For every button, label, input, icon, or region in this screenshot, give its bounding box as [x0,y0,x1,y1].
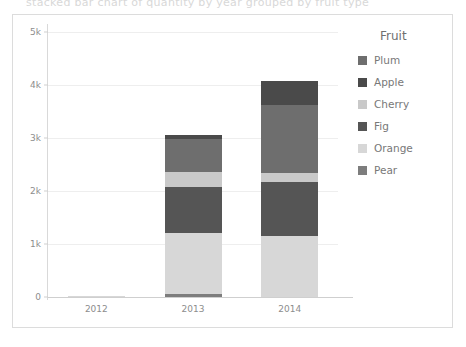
bar-2013[interactable] [165,135,222,297]
y-axis-tick-mark [44,138,48,139]
chart-frame: 01k2k3k4k5k 201220132014 Fruit PlumApple… [12,14,453,328]
legend-title: Fruit [380,29,453,43]
legend-swatch-icon [358,122,367,131]
legend-item-orange[interactable]: Orange [358,138,453,158]
bar-segment-cherry[interactable] [165,172,222,187]
bar-segment-orange[interactable] [165,233,222,293]
x-axis-tick-label: 2012 [85,304,108,314]
legend-swatch-icon [358,144,367,153]
bar-segment-orange[interactable] [68,296,125,297]
bar-segment-orange[interactable] [261,236,318,297]
legend-item-label: Apple [374,76,404,88]
legend-item-cherry[interactable]: Cherry [358,94,453,114]
legend-items: PlumAppleCherryFigOrangePear [358,50,453,180]
x-axis-tick-label: 2013 [182,304,205,314]
bar-segment-fig[interactable] [165,187,222,234]
bar-segment-pear[interactable] [165,294,222,297]
bar-2012[interactable] [68,296,125,297]
bar-segment-apple[interactable] [165,139,222,172]
bar-segment-cherry[interactable] [261,173,318,182]
chart-area: 01k2k3k4k5k 201220132014 Fruit PlumApple… [13,15,454,327]
y-axis-tick-mark [44,244,48,245]
clipped-caption-text: stacked bar chart of quantity by year gr… [0,0,466,14]
y-axis-tick-mark [44,191,48,192]
legend-item-apple[interactable]: Apple [358,72,453,92]
y-axis-tick-label: 3k [30,133,41,143]
legend-item-label: Orange [374,142,413,154]
y-axis-tick-label: 4k [30,80,41,90]
y-axis-tick-mark [44,297,48,298]
legend-item-pear[interactable]: Pear [358,160,453,180]
y-axis-tick-label: 1k [30,239,41,249]
bar-2014[interactable] [261,81,318,297]
bar-segment-plum[interactable] [261,81,318,105]
y-axis-tick-label: 0 [35,292,41,302]
legend-item-label: Cherry [374,98,409,110]
legend-swatch-icon [358,166,367,175]
legend-item-plum[interactable]: Plum [358,50,453,70]
gridline [48,32,338,33]
legend-swatch-icon [358,78,367,87]
y-axis-tick-label: 5k [30,27,41,37]
gridline [48,297,338,298]
legend-swatch-icon [358,100,367,109]
y-axis-tick-mark [44,32,48,33]
y-axis-tick-label: 2k [30,186,41,196]
legend-item-label: Fig [374,120,389,132]
y-axis-tick-mark [44,85,48,86]
legend: Fruit PlumAppleCherryFigOrangePear [358,29,453,182]
legend-item-fig[interactable]: Fig [358,116,453,136]
x-axis-tick-label: 2014 [278,304,301,314]
bar-segment-fig[interactable] [261,182,318,236]
plot-area: 01k2k3k4k5k 201220132014 [48,32,338,297]
bar-segment-apple[interactable] [261,105,318,173]
legend-swatch-icon [358,56,367,65]
legend-item-label: Pear [374,164,397,176]
legend-item-label: Plum [374,54,400,66]
y-axis-line [47,24,48,300]
